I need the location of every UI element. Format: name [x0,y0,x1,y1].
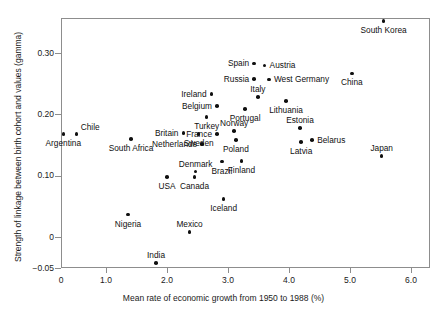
data-point-label: Mexico [176,220,202,228]
x-tick-label: 3.0 [208,276,248,285]
y-tick-label: 0.10 [37,171,54,180]
data-point-label: Latvia [290,147,312,155]
data-point-label: India [147,251,165,259]
data-point [129,137,133,141]
scatter-plot-figure: 0.300.200.100−0.05 01.02.03.04.05.06.0 A… [0,0,447,320]
data-point-label: Denmark [179,160,213,168]
data-point [299,140,303,144]
data-point-label: Portugal [230,114,261,122]
data-point-label: Iceland [210,204,237,212]
data-point [182,131,186,135]
x-axis-title: Mean rate of economic growth from 1950 t… [0,294,447,303]
y-axis-title: Strength of linkage between birth cohort… [14,32,23,262]
data-point [243,107,247,111]
y-tick-mark [55,53,61,54]
data-point-label: Argentina [46,139,82,147]
data-point-label: Sweden [184,139,214,147]
data-point-label: South Korea [361,26,407,34]
data-point-label: Estonia [286,116,314,124]
y-tick-mark [55,114,61,115]
data-point-label: Austria [270,61,296,69]
data-point-label: Italy [250,85,265,93]
data-point-label: Belarus [317,136,345,144]
y-tick-mark [55,237,61,238]
data-point [298,126,302,130]
x-tick-label: 1.0 [86,276,126,285]
data-point-label: West Germany [274,75,329,83]
x-tick-label: 4.0 [269,276,309,285]
data-point [232,129,236,133]
y-tick-mark [55,176,61,177]
data-point [252,77,256,81]
data-point [154,261,158,265]
y-tick-label: 0 [49,233,54,242]
data-point-label: Japan [370,144,393,152]
data-point-label: Britain [155,129,179,137]
y-tick-label: 0.20 [37,110,54,119]
data-point-label: Chile [81,123,100,131]
data-point [215,132,219,136]
data-point [252,62,256,66]
data-point-label: Nigeria [115,220,141,228]
data-point [256,95,260,99]
data-point [240,159,244,163]
x-tick-label: 5.0 [330,276,370,285]
y-tick-mark [55,268,61,269]
data-point-label: Russia [224,75,249,83]
x-tick-mark [411,268,412,273]
data-point-label: China [341,78,363,86]
data-point [267,78,271,82]
data-point-label: Poland [223,145,249,153]
x-tick-mark [228,268,229,273]
data-point-label: Spain [228,59,249,67]
data-point-label: France [186,130,212,138]
x-tick-mark [350,268,351,273]
data-point-label: Lithuania [269,106,303,114]
x-tick-mark [167,268,168,273]
y-tick-label: −0.05 [32,264,54,273]
y-tick-label: 0.30 [37,49,54,58]
data-point [284,99,288,103]
x-tick-mark [106,268,107,273]
data-point-label: Ireland [181,90,206,98]
data-point [165,175,169,179]
x-tick-label: 2.0 [147,276,187,285]
x-tick-label: 6.0 [391,276,431,285]
data-point [350,72,354,76]
data-point-label: Finland [228,166,255,174]
data-point [234,138,238,142]
data-point [62,132,66,136]
x-tick-mark [289,268,290,273]
data-point-label: Belgium [182,102,212,110]
data-point-label: Canada [180,182,209,190]
data-point [310,138,314,142]
data-point [215,104,219,108]
data-point-label: USA [158,182,175,190]
x-tick-label: 0 [41,276,81,285]
data-point-label: South Africa [109,144,154,152]
data-point [188,230,192,234]
